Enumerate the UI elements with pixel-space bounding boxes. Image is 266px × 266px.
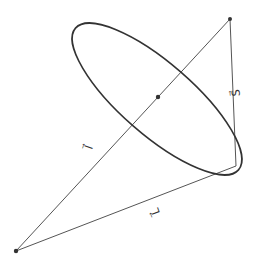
l-vector-label: l⃗ — [81, 142, 96, 152]
apex-point — [228, 17, 232, 21]
center-point — [156, 95, 160, 99]
origin-point — [14, 249, 18, 253]
L-vector-line — [16, 166, 236, 251]
vector-diagram: l⃗ L⃗ S⃗ — [0, 0, 266, 266]
L-vector-label: L⃗ — [147, 205, 163, 218]
S-vector-label: S⃗ — [228, 89, 243, 97]
l-vector-line — [16, 19, 230, 251]
